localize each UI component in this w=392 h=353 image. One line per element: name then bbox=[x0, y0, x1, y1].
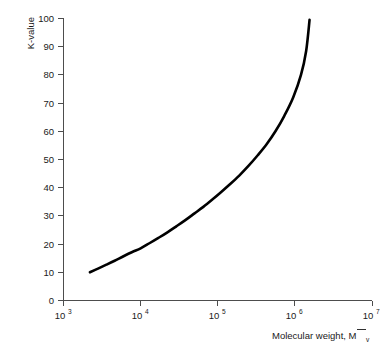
x-tick-label-1e3-exp: 3 bbox=[68, 308, 72, 315]
y-tick-label-90: 90 bbox=[43, 41, 54, 52]
x-tick-label-1e7-exp: 7 bbox=[376, 308, 380, 315]
y-tick-label-80: 80 bbox=[43, 69, 54, 80]
x-tick-label-1e4-base: 10 bbox=[132, 310, 143, 321]
y-tick-label-30: 30 bbox=[43, 210, 54, 221]
y-tick-label-70: 70 bbox=[43, 98, 54, 109]
x-tick-label-1e6-base: 10 bbox=[286, 310, 297, 321]
x-axis-title: Molecular weight, M bbox=[272, 330, 357, 341]
y-tick-label-60: 60 bbox=[43, 126, 54, 137]
x-axis-ticks bbox=[64, 301, 373, 307]
y-tick-label-0: 0 bbox=[49, 295, 54, 306]
data-curve-k-value bbox=[90, 20, 310, 272]
x-axis-title-group: Molecular weight, M v bbox=[272, 330, 370, 344]
y-axis-tick-labels: 0 10 20 30 40 50 60 70 80 90 100 bbox=[38, 13, 54, 306]
x-tick-label-1e5-base: 10 bbox=[209, 310, 220, 321]
x-tick-label-1e6-exp: 6 bbox=[299, 308, 303, 315]
x-tick-label-1e5-exp: 5 bbox=[222, 308, 226, 315]
x-tick-label-1e7-base: 10 bbox=[363, 310, 374, 321]
x-axis-title-subscript: v bbox=[366, 336, 370, 343]
y-tick-label-10: 10 bbox=[43, 267, 54, 278]
x-tick-label-1e3-base: 10 bbox=[55, 310, 66, 321]
y-tick-label-100: 100 bbox=[38, 13, 54, 24]
chart-svg: 0 10 20 30 40 50 60 70 80 90 100 10 3 10… bbox=[0, 0, 392, 353]
y-axis-ticks bbox=[58, 19, 64, 301]
chart-container: 0 10 20 30 40 50 60 70 80 90 100 10 3 10… bbox=[0, 0, 392, 353]
y-tick-label-50: 50 bbox=[43, 154, 54, 165]
x-axis-tick-labels: 10 3 10 4 10 5 10 6 10 7 bbox=[55, 308, 380, 321]
y-tick-label-20: 20 bbox=[43, 239, 54, 250]
x-tick-label-1e4-exp: 4 bbox=[145, 308, 149, 315]
y-axis-title: K-value bbox=[25, 17, 36, 49]
y-tick-label-40: 40 bbox=[43, 182, 54, 193]
